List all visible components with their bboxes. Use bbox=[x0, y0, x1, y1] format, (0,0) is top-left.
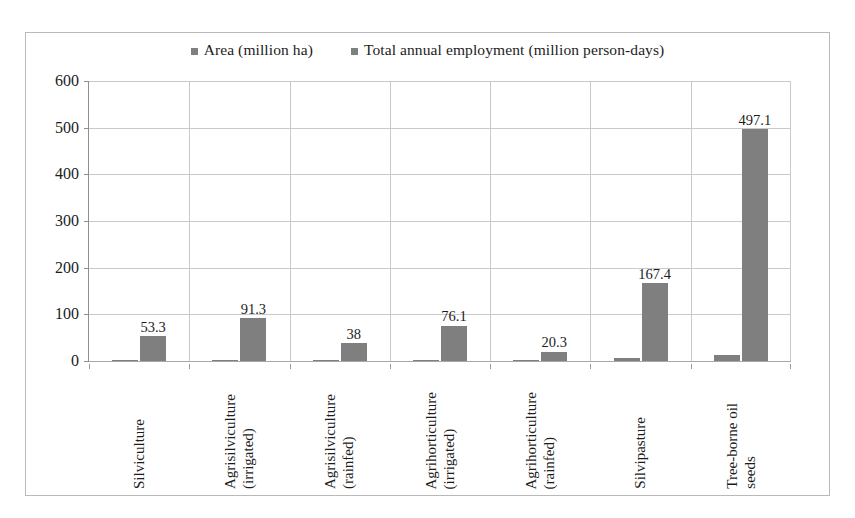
chart-legend: Area (million ha) Total annual employmen… bbox=[26, 41, 829, 59]
y-axis-tick-label: 200 bbox=[55, 259, 79, 277]
x-axis-category-text: Agrisilviculture (irrigated) bbox=[221, 394, 258, 489]
bar-value-label: 167.4 bbox=[638, 267, 671, 282]
x-axis-tick bbox=[290, 364, 291, 369]
bar-value-label: 20.3 bbox=[542, 335, 567, 350]
x-axis-category-text: Silvipasture bbox=[631, 417, 649, 489]
bar-area[interactable]: 1.3 bbox=[313, 360, 339, 362]
bar-area[interactable]: 1.5 bbox=[413, 360, 439, 362]
y-axis-tick bbox=[84, 361, 89, 362]
y-axis-tick-label: 100 bbox=[55, 305, 79, 323]
y-axis-tick bbox=[84, 221, 89, 222]
x-axis-category-labels: SilvicultureAgrisilviculture (irrigated)… bbox=[89, 369, 791, 489]
bar-area[interactable]: 12.4 bbox=[714, 355, 740, 361]
y-axis-tick bbox=[84, 128, 89, 129]
bar-employment[interactable]: 53.3 bbox=[140, 336, 166, 361]
bar-group: 5.6167.4 bbox=[590, 81, 690, 361]
bar-employment[interactable]: 91.3 bbox=[240, 318, 266, 361]
bar-group: 12.4497.1 bbox=[691, 81, 791, 361]
x-axis-tick bbox=[390, 364, 391, 369]
bar-area[interactable]: 0.5 bbox=[513, 360, 539, 362]
bar-group: 0.520.3 bbox=[490, 81, 590, 361]
y-axis-tick bbox=[84, 268, 89, 269]
plot-inner: 1.853.32.391.31.3381.576.10.520.35.6167.… bbox=[89, 81, 791, 361]
y-axis-tick-label: 600 bbox=[55, 72, 79, 90]
bar-employment[interactable]: 20.3 bbox=[541, 352, 567, 361]
x-axis-tick bbox=[490, 364, 491, 369]
y-axis-tick-label: 300 bbox=[55, 212, 79, 230]
y-axis-tick bbox=[84, 314, 89, 315]
bar-employment[interactable]: 167.4 bbox=[642, 283, 668, 361]
x-axis-category-label: Silvipasture bbox=[590, 369, 690, 489]
x-axis-category-label: Agrisilviculture (irrigated) bbox=[189, 369, 289, 489]
x-axis-tick bbox=[89, 364, 90, 369]
y-axis-tick bbox=[84, 174, 89, 175]
x-axis-tick bbox=[590, 364, 591, 369]
bar-employment[interactable]: 76.1 bbox=[441, 326, 467, 362]
bar-group: 1.338 bbox=[290, 81, 390, 361]
x-axis-tick bbox=[691, 364, 692, 369]
bar-value-label: 76.1 bbox=[441, 309, 466, 324]
legend-item-area: Area (million ha) bbox=[191, 41, 313, 59]
bar-area[interactable]: 2.3 bbox=[212, 360, 238, 362]
bar-group: 1.576.1 bbox=[390, 81, 490, 361]
x-axis-category-label: Tree-borne oil seeds bbox=[691, 369, 791, 489]
y-axis-tick-label: 0 bbox=[71, 352, 79, 370]
legend-label-area: Area (million ha) bbox=[204, 41, 313, 59]
legend-swatch-icon bbox=[351, 48, 358, 55]
x-axis-tick bbox=[189, 364, 190, 369]
bar-value-label: 53.3 bbox=[140, 320, 165, 335]
x-axis-category-text: Agrisilviculture (rainfed) bbox=[321, 394, 358, 489]
bar-employment[interactable]: 38 bbox=[341, 343, 367, 361]
legend-label-employment: Total annual employment (million person-… bbox=[364, 41, 664, 59]
bar-employment[interactable]: 497.1 bbox=[742, 129, 768, 361]
y-axis-tick bbox=[84, 81, 89, 82]
x-axis-category-text: Agrihorticulture (irrigated) bbox=[422, 392, 459, 489]
bar-value-label: 38 bbox=[346, 327, 361, 342]
x-axis-category-text: Tree-borne oil seeds bbox=[723, 403, 760, 489]
y-axis-tick-label: 400 bbox=[55, 165, 79, 183]
bar-area[interactable]: 1.8 bbox=[112, 360, 138, 362]
x-axis-category-label: Agrisilviculture (rainfed) bbox=[290, 369, 390, 489]
x-axis-tick bbox=[790, 364, 791, 369]
plot-area: 1.853.32.391.31.3381.576.10.520.35.6167.… bbox=[89, 81, 791, 361]
chart-container: Area (million ha) Total annual employmen… bbox=[25, 32, 830, 496]
legend-swatch-icon bbox=[191, 48, 198, 55]
x-axis-category-label: Agrihorticulture (irrigated) bbox=[390, 369, 490, 489]
x-axis-category-text: Agrihorticulture (rainfed) bbox=[522, 392, 559, 489]
bar-group: 1.853.3 bbox=[89, 81, 189, 361]
bar-area[interactable]: 5.6 bbox=[614, 358, 640, 361]
legend-item-employment: Total annual employment (million person-… bbox=[351, 41, 664, 59]
gridline bbox=[89, 361, 791, 362]
x-axis-category-text: Silviculture bbox=[130, 419, 148, 489]
bar-value-label: 497.1 bbox=[739, 113, 772, 128]
x-axis-category-label: Agrihorticulture (rainfed) bbox=[490, 369, 590, 489]
bar-group: 2.391.3 bbox=[189, 81, 289, 361]
bar-value-label: 91.3 bbox=[241, 302, 266, 317]
y-axis-tick-label: 500 bbox=[55, 119, 79, 137]
x-axis-category-label: Silviculture bbox=[89, 369, 189, 489]
